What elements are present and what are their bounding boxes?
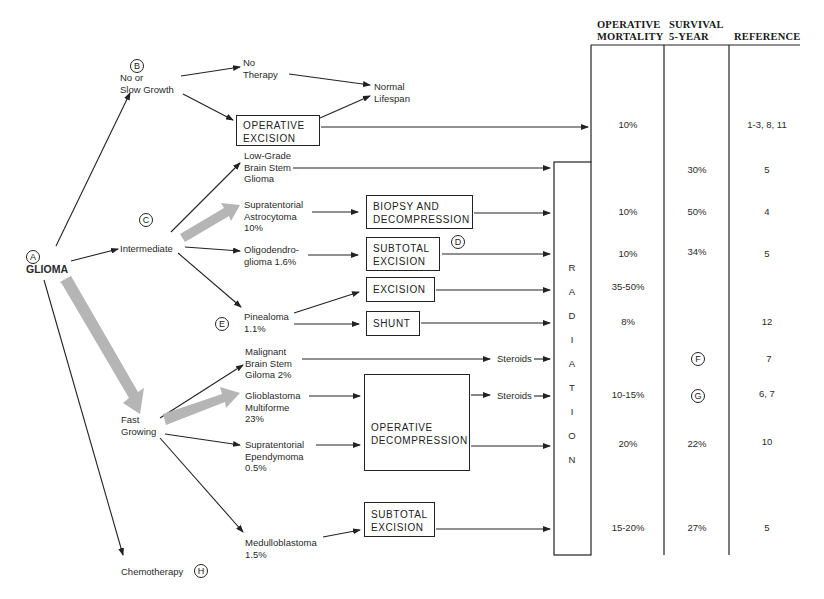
row-4-reference: 5 xyxy=(737,248,797,259)
category-intermediate: Intermediate xyxy=(120,243,173,255)
box-operative-excision: OPERATIVE EXCISION xyxy=(236,115,320,146)
tumor-glioblastoma: Glioblastoma Multiforme 23% xyxy=(245,390,300,425)
no-therapy: No Therapy xyxy=(243,57,278,80)
box-subtotal-excision-2: SUBTOTAL EXCISION xyxy=(364,502,435,537)
row-9-survival: 22% xyxy=(667,438,727,449)
row-9-reference: 10 xyxy=(737,436,797,447)
marker-c: C xyxy=(139,213,153,227)
tumor-oligodendroglioma: Oligodendro- glioma 1.6% xyxy=(244,244,299,267)
radiation-letter: T xyxy=(552,382,592,393)
radiation-letter: D xyxy=(552,310,592,321)
row-2-survival: 30% xyxy=(667,164,727,175)
row-2-reference: 5 xyxy=(737,164,797,175)
box-shunt: SHUNT xyxy=(366,311,420,336)
row-6-reference: 12 xyxy=(737,316,797,327)
category-chemotherapy: Chemotherapy xyxy=(121,566,183,578)
row-1-mortality: 10% xyxy=(598,119,658,130)
row-5-mortality: 35-50% xyxy=(598,281,658,292)
marker-b: B xyxy=(130,59,144,73)
header-survival-5-year: SURVIVAL 5-YEAR xyxy=(669,19,724,43)
tumor-medulloblastoma: Medulloblastoma 1.5% xyxy=(245,537,317,560)
marker-h: H xyxy=(194,564,208,578)
category-fast-growing: Fast Growing xyxy=(121,414,156,437)
row-8-reference: 6, 7 xyxy=(737,388,797,399)
box-subtotal-excision-1: SUBTOTAL EXCISION xyxy=(366,237,440,271)
tumor-supratentorial-astrocytoma: Supratentorial Astrocytoma 10% xyxy=(244,199,303,234)
radiation-letter: I xyxy=(552,406,592,417)
steroids-1: Steroids xyxy=(497,353,532,365)
row-9-mortality: 20% xyxy=(598,438,658,449)
row-7-reference: 7 xyxy=(739,353,799,364)
radiation-letter: N xyxy=(552,454,592,465)
row-1-reference: 1-3, 8, 11 xyxy=(737,119,797,130)
marker-d: D xyxy=(451,235,465,249)
row-8-mortality: 10-15% xyxy=(598,389,658,400)
radiation-letter: A xyxy=(552,286,592,297)
marker-a: A xyxy=(26,250,40,264)
row-4-mortality: 10% xyxy=(598,248,658,259)
row-10-survival: 27% xyxy=(667,522,727,533)
tumor-supratentorial-ependymoma: Supratentorial Ependymoma 0.5% xyxy=(245,439,304,474)
row-4-survival: 34% xyxy=(667,246,727,257)
category-slow-growth: No or Slow Growth xyxy=(120,72,174,95)
radiation-letter: O xyxy=(552,430,592,441)
box-biopsy-decompression: BIOPSY AND DECOMPRESSION xyxy=(366,195,473,229)
box-excision: EXCISION xyxy=(366,277,435,302)
row-3-survival: 50% xyxy=(667,206,727,217)
normal-lifespan: Normal Lifespan xyxy=(374,81,410,104)
row-3-mortality: 10% xyxy=(598,206,658,217)
header-operative-mortality: OPERATIVE MORTALITY xyxy=(597,19,664,43)
radiation-letter: I xyxy=(552,334,592,345)
radiation-letter: R xyxy=(552,262,592,273)
row-10-reference: 5 xyxy=(737,522,797,533)
tumor-pinealoma: Pinealoma 1.1% xyxy=(244,311,289,334)
row-6-mortality: 8% xyxy=(598,316,658,327)
marker-f: F xyxy=(691,352,705,366)
header-reference: REFERENCE xyxy=(734,31,801,43)
marker-g: G xyxy=(691,389,705,403)
row-3-reference: 4 xyxy=(737,206,797,217)
marker-e: E xyxy=(215,317,229,331)
steroids-2: Steroids xyxy=(497,390,532,402)
root-glioma: GLIOMA xyxy=(26,264,68,276)
row-10-mortality: 15-20% xyxy=(598,522,658,533)
tumor-malignant-brain-stem: Malignant Brain Stem Giloma 2% xyxy=(245,346,292,381)
tumor-low-grade-brain-stem: Low-Grade Brain Stem Glioma xyxy=(244,150,291,185)
radiation-letter: A xyxy=(552,358,592,369)
box-operative-decompression: OPERATIVE DECOMPRESSION xyxy=(364,374,470,471)
